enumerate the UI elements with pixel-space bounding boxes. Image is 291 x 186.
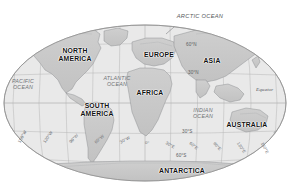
- ocean-label-line1: ARCTIC OCEAN: [170, 13, 231, 19]
- landmass-antarctica: [14, 161, 278, 181]
- continent-label-line1: ASIA: [184, 57, 239, 65]
- ocean-label-arctic: ARCTIC OCEAN: [170, 13, 231, 19]
- world-map: NORTH AMERICA SOUTH AMERICA EUROPE ASIA …: [0, 0, 291, 186]
- ocean-label-line2: OCEAN: [183, 113, 223, 119]
- continent-label-south-america: SOUTH AMERICA: [69, 102, 124, 118]
- continent-label-antarctica: ANTARCTICA: [150, 167, 214, 175]
- ocean-label-line2: OCEAN: [95, 81, 139, 87]
- continent-label-north-america: NORTH AMERICA: [47, 47, 102, 63]
- latitude-label-60n: 60°N: [186, 42, 197, 47]
- continent-label-line2: AMERICA: [47, 55, 102, 63]
- ocean-label-atlantic: ATLANTIC OCEAN: [95, 75, 139, 88]
- continent-label-line1: EUROPE: [131, 51, 186, 59]
- continent-label-asia: ASIA: [184, 57, 239, 65]
- continent-label-europe: EUROPE: [131, 51, 186, 59]
- continent-label-line1: AUSTRALIA: [217, 121, 278, 129]
- ocean-label-pacific: PACIFIC OCEAN: [3, 78, 43, 91]
- longitude-label-0: 0°: [145, 140, 149, 145]
- continent-label-line2: AMERICA: [69, 110, 124, 118]
- continent-label-africa: AFRICA: [122, 89, 177, 97]
- latitude-label-30s: 30°S: [182, 129, 192, 134]
- ocean-label-indian: INDIAN OCEAN: [183, 107, 223, 120]
- ocean-label-line2: OCEAN: [3, 84, 43, 90]
- continent-label-line1: AFRICA: [122, 89, 177, 97]
- latitude-label-30n: 30°N: [188, 70, 199, 75]
- latitude-label-60s: 60°S: [176, 153, 186, 158]
- landmass-alaska: [14, 36, 32, 48]
- latitude-label-equator: Equator: [256, 87, 273, 92]
- continent-label-australia: AUSTRALIA: [217, 121, 278, 129]
- continent-label-line1: ANTARCTICA: [150, 167, 214, 175]
